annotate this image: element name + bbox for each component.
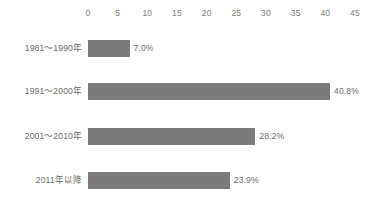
category-label: 2011年以降: [36, 175, 82, 186]
bar: [88, 40, 130, 57]
bar-value-label: 23.9%: [234, 175, 259, 186]
bar-chart: 051015202530354045 1981〜1990年7.0%1991〜20…: [0, 0, 376, 208]
plot-area: 1981〜1990年7.0%1991〜2000年40.8%2001〜2010年2…: [0, 0, 376, 208]
category-label: 1981〜1990年: [25, 43, 82, 54]
bar: [88, 83, 330, 100]
bar-value-label: 40.8%: [334, 86, 359, 97]
bar-value-label: 28.2%: [259, 131, 284, 142]
bar-row: 2011年以降23.9%: [0, 172, 376, 189]
category-label: 2001〜2010年: [25, 131, 82, 142]
bar-row: 1981〜1990年7.0%: [0, 40, 376, 57]
bar-row: 1991〜2000年40.8%: [0, 83, 376, 100]
bar-row: 2001〜2010年28.2%: [0, 128, 376, 145]
bar: [88, 128, 255, 145]
bar: [88, 172, 230, 189]
category-label: 1991〜2000年: [25, 86, 82, 97]
bar-value-label: 7.0%: [134, 43, 154, 54]
